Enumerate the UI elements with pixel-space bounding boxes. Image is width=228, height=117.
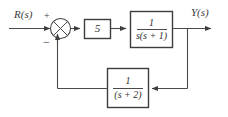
gain-block-label: 5 [84,19,111,39]
block-diagram-canvas: R(s) Y(s) + − 5 1 s(s + 1) 1 (s + 2) [0,0,228,117]
input-signal-label: R(s) [14,9,32,20]
output-signal-label: Y(s) [191,7,209,18]
plant-block-denominator: s(s + 1) [136,31,167,42]
summing-junction-minus-sign: − [43,36,50,48]
plant-block-numerator: 1 [149,18,154,29]
feedback-block-denominator: (s + 2) [114,90,141,101]
feedback-block-label: 1 (s + 2) [108,69,148,107]
summing-junction-plus-sign: + [44,11,50,21]
gain-block-value: 5 [95,23,101,35]
feedback-block-numerator: 1 [126,76,131,87]
plant-block-label: 1 s(s + 1) [131,12,172,47]
